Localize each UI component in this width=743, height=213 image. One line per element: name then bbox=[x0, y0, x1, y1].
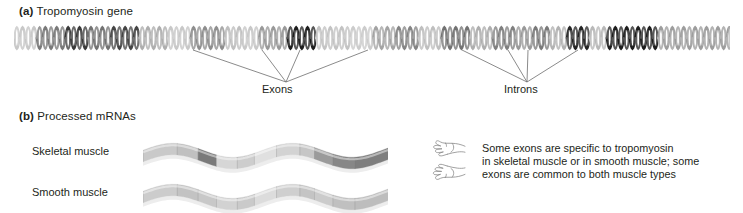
pointing-hand-icon bbox=[430, 160, 466, 182]
mrna-strand-skeletal-muscle bbox=[143, 135, 388, 177]
panel-a-title-text: Tropomyosin gene bbox=[36, 5, 132, 17]
panel-a-tag: (a) bbox=[19, 5, 33, 17]
panel-b-title: (b) Processed mRNAs bbox=[19, 110, 136, 122]
annotation-text: Some exons are specific to tropomyosin i… bbox=[482, 139, 699, 182]
mrna-label-smooth-muscle: Smooth muscle bbox=[32, 186, 108, 198]
callout-label-introns: Introns bbox=[504, 83, 538, 95]
panel-b-tag: (b) bbox=[19, 110, 34, 122]
annotation-hand-icons bbox=[430, 139, 478, 187]
panel-a-title: (a) Tropomyosin gene bbox=[19, 5, 133, 17]
tropomyosin-gene-helix bbox=[14, 25, 730, 51]
annotation-line: exons are common to both muscle types bbox=[482, 168, 699, 181]
callout-label-exons: Exons bbox=[262, 83, 293, 95]
annotation-block: Some exons are specific to tropomyosin i… bbox=[430, 139, 740, 187]
pointing-hand-icon bbox=[432, 139, 466, 159]
annotation-line: Some exons are specific to tropomyosin bbox=[482, 142, 699, 155]
mrna-strand-smooth-muscle bbox=[143, 176, 388, 213]
annotation-line: in skeletal muscle or in smooth muscle; … bbox=[482, 155, 699, 168]
mrna-label-skeletal-muscle: Skeletal muscle bbox=[32, 145, 109, 157]
panel-b-title-text: Processed mRNAs bbox=[37, 110, 136, 122]
